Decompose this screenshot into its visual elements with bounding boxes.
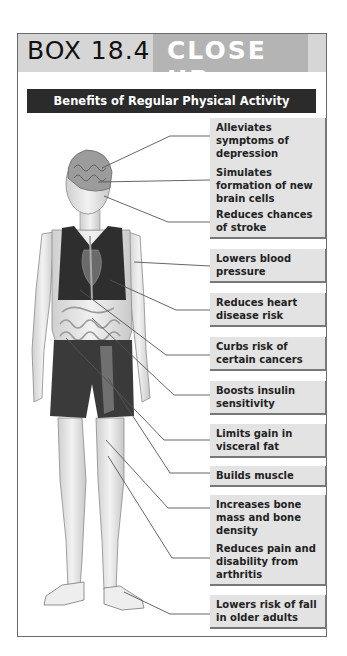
shorts: [50, 340, 134, 418]
shoes: [44, 582, 144, 610]
anatomy-figure: [0, 0, 347, 656]
legs: [58, 418, 124, 590]
